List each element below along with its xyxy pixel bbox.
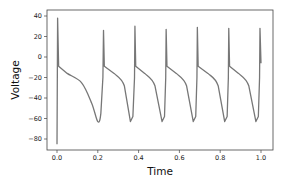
- x-tick-label: 0.2: [93, 154, 103, 162]
- y-tick-label: −60: [28, 115, 42, 123]
- y-tick-label: −80: [28, 135, 42, 143]
- x-axis-ticks: 0.00.20.40.60.81.0: [52, 150, 266, 162]
- x-tick-label: 0.8: [215, 154, 225, 162]
- voltage-time-chart: 40200−20−40−60−80 0.00.20.40.60.81.0 Vol…: [0, 0, 285, 182]
- y-tick-label: 20: [34, 33, 42, 41]
- x-axis-title: Time: [146, 165, 173, 177]
- y-axis-title: Voltage: [9, 60, 21, 99]
- y-tick-label: 40: [34, 12, 42, 20]
- y-axis-ticks: 40200−20−40−60−80: [28, 12, 47, 143]
- x-tick-label: 0.6: [174, 154, 184, 162]
- x-tick-label: 0.4: [133, 154, 143, 162]
- x-tick-label: 0.0: [52, 154, 62, 162]
- x-tick-label: 1.0: [256, 154, 266, 162]
- y-tick-label: −20: [28, 74, 42, 82]
- plot-area: [47, 10, 273, 150]
- y-tick-label: −40: [28, 94, 42, 102]
- y-tick-label: 0: [38, 53, 42, 61]
